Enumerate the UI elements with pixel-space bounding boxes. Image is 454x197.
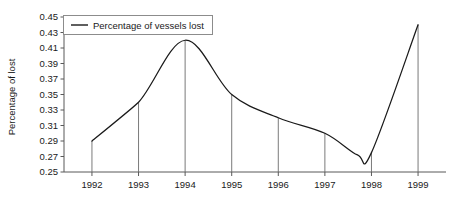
x-axis-tick-label: 1994: [175, 179, 196, 190]
y-axis-tick-label: 0.37: [40, 73, 59, 84]
legend-label: Percentage of vessels lost: [93, 20, 204, 31]
y-axis-tick-label: 0.27: [40, 151, 59, 162]
line-chart: Percentage of lost 0.250.270.290.310.330…: [0, 0, 454, 197]
x-axis-tick-label: 1993: [128, 179, 149, 190]
legend: Percentage of vessels lost: [64, 16, 213, 35]
y-axis-title: Percentage of lost: [6, 58, 17, 135]
y-axis-tick-label: 0.41: [40, 42, 59, 53]
y-axis-tick-labels: 0.250.270.290.310.330.350.370.390.410.43…: [40, 11, 59, 177]
y-axis-tick-label: 0.43: [40, 27, 59, 38]
y-axis-tick-label: 0.31: [40, 120, 59, 131]
chart-container: Percentage of lost 0.250.270.290.310.330…: [0, 0, 454, 197]
x-axis-tick-label: 1999: [407, 179, 428, 190]
y-axis-tick-label: 0.39: [40, 58, 59, 69]
x-axis-tick-label: 1996: [268, 179, 289, 190]
x-axis-tick-label: 1998: [361, 179, 382, 190]
x-axis-tick-label: 1997: [314, 179, 335, 190]
y-axis-tick-label: 0.25: [40, 166, 59, 177]
y-axis-tick-label: 0.35: [40, 89, 59, 100]
y-axis-tick-label: 0.33: [40, 104, 59, 115]
y-axis-tick-label: 0.45: [40, 11, 59, 22]
x-axis-tick-label: 1995: [221, 179, 242, 190]
y-axis-tick-label: 0.29: [40, 135, 59, 146]
x-axis-tick-label: 1992: [81, 179, 102, 190]
